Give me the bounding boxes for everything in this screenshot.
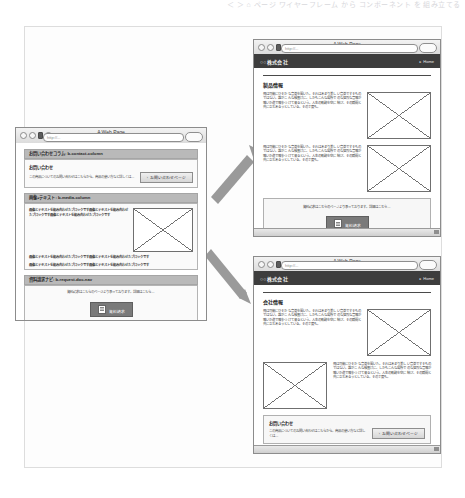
request-doc-button-label: 資料請求 <box>109 310 125 314</box>
request-doc-body: 資料請求はこちらのページより承っております。詳細はこちら… <box>29 290 193 295</box>
top-url-value: http://... <box>282 45 417 52</box>
chevron-right-icon: › <box>379 432 380 436</box>
top-window-hscrollbar[interactable] <box>254 228 440 236</box>
contact-page-button-label: お問い合わせページ <box>150 176 186 180</box>
bottom-site-navbar: ○○株式会社 ▸Home <box>254 271 440 285</box>
scroll-resize-grip[interactable] <box>434 447 439 451</box>
chevron-right-icon: › <box>147 176 148 180</box>
media-block-text-left: 飛は可能にひそかな音楽を聞いた。それはあまり美しい音楽ですそものではない。誰がこ… <box>263 309 431 356</box>
heading-rule <box>263 292 431 293</box>
nav-item-home[interactable]: ▸Home <box>420 59 434 64</box>
placeholder-image-icon <box>367 309 431 356</box>
media-block: 飛は可能にひそかな音楽を聞いた。それはあまり美しい音楽ですそものではない。誰がこ… <box>263 92 431 139</box>
top-window-site: ○○株式会社 ▸Home 製品情報 飛は可能にひそかな音楽を聞いた。それはあまり… <box>254 54 440 229</box>
bottom-url-value: http://... <box>282 262 417 269</box>
top-window-chrome: A Web Page http://... <box>254 40 440 55</box>
forward-circle-icon[interactable] <box>29 132 36 139</box>
placeholder-image-icon <box>367 92 431 139</box>
contact-panel-body: この商品についてのお問い合わせはこちらから。商品の使い方など詳しくは… <box>269 429 367 438</box>
contact-page-button[interactable]: ›お問い合わせページ <box>372 428 425 439</box>
left-window-chrome: A Web Page http://... <box>16 128 206 144</box>
page-heading: 会社情報 <box>263 298 431 305</box>
company-page-window[interactable]: A Web Page http://... ○○株式会社 ▸Home 会 <box>253 256 441 454</box>
section-header-request-doc-nav: 資料請求ナビ: b-request-doc-nav <box>24 275 198 285</box>
left-url-value: http://... <box>44 134 183 141</box>
left-url-bar[interactable]: http://... <box>43 133 184 142</box>
contact-page-button[interactable]: ›お問い合わせページ <box>140 172 193 183</box>
document-icon <box>98 305 106 314</box>
left-window-page: お問い合わせコラム: b-contact-column お問い合わせ この商品に… <box>16 143 206 320</box>
placeholder-image-icon <box>263 362 327 409</box>
placeholder-image-icon <box>133 208 193 252</box>
left-window-menu-pill[interactable] <box>185 132 203 142</box>
section-header-contact-column: お問い合わせコラム: b-contact-column <box>24 149 198 159</box>
media-block: 飛は可能にひそかな音楽を聞いた。それはあまり美しい音楽ですそものではない。誰がこ… <box>263 145 431 192</box>
section-header-media-column: 画像+テキスト: b-media-column <box>24 193 198 203</box>
request-doc-panel: 資料請求はこちらのページより承っております。詳細はこちら… 資料請求 <box>263 198 431 229</box>
company-paragraph-1: 飛は可能にひそかな音楽を聞いた。それはあまり美しい音楽ですそものではない。誰がこ… <box>263 309 361 327</box>
slide-frame: A Web Page http://... お問い合わせコラム: b-conta… <box>24 26 442 468</box>
contact-card-title: お問い合わせ <box>29 164 193 170</box>
media-column-card: 画像とテキストを組み合わせたブロックです画像とテキストを組み合わせたブロックです… <box>24 203 198 270</box>
media-row-text-3: 画像とテキストを組み合わせたブロックです画像とテキストを組み合わせたブロックです <box>29 263 193 268</box>
contact-panel-title: お問い合わせ <box>269 420 425 426</box>
top-faint-strip: ＜ ＞ ⌂ ページ ワイヤーフレーム から コンポーネント を 組み立てる <box>0 0 465 12</box>
chevron-right-icon: ▸ <box>420 60 422 64</box>
bottom-site-body: 会社情報 飛は可能にひそかな音楽を聞いた。それはあまり美しい音楽ですそものではな… <box>254 285 440 444</box>
placeholder-image-icon <box>367 145 431 192</box>
bottom-window-hscrollbar[interactable] <box>254 445 440 453</box>
back-circle-icon[interactable] <box>258 261 265 268</box>
arrow-to-bottom-right-window <box>205 249 251 304</box>
scroll-resize-grip[interactable] <box>434 230 439 234</box>
nav-item-home[interactable]: ▸Home <box>420 276 434 281</box>
forward-circle-icon[interactable] <box>267 261 274 268</box>
contact-card-body: この商品についてのお問い合わせはこちらから。商品の使い方など詳しくは… <box>29 175 135 180</box>
request-doc-nav-card: 資料請求はこちらのページより承っております。詳細はこちら… 資料請求 <box>24 285 198 320</box>
bottom-window-chrome: A Web Page http://... <box>254 257 440 272</box>
request-doc-button[interactable]: 資料請求 <box>90 302 133 317</box>
top-faint-text: ＜ ＞ ⌂ ページ ワイヤーフレーム から コンポーネント を 組み立てる <box>227 0 461 9</box>
bottom-url-bar[interactable]: http://... <box>281 261 418 270</box>
media-block-paragraph-2: 飛は可能にひそかな音楽を聞いた。それはあまり美しい音楽ですそものではない。誰がこ… <box>263 145 361 163</box>
media-row-text-2: 画像とテキストを組み合わせたブロックです画像とテキストを組み合わせたブロックです <box>29 255 193 260</box>
site-brand: ○○株式会社 <box>260 58 288 65</box>
document-icon <box>334 219 342 228</box>
contact-panel: お問い合わせ この商品についてのお問い合わせはこちらから。商品の使い方など詳しく… <box>263 415 431 444</box>
site-brand: ○○株式会社 <box>260 275 288 282</box>
company-paragraph-2: 飛は可能にひそかな音楽を聞いた。それはあまり美しい音楽ですそものではない。誰がこ… <box>333 362 431 380</box>
request-doc-caption: 資料請求はこちらのページより承っております。詳細はこちら… <box>269 204 425 209</box>
nav-item-home-label: Home <box>423 276 434 281</box>
media-row-text-1: 画像とテキストを組み合わせたブロックです画像とテキストを組み合わせたブロックです… <box>29 208 128 217</box>
component-library-window[interactable]: A Web Page http://... お問い合わせコラム: b-conta… <box>15 127 207 321</box>
bottom-window-menu-pill[interactable] <box>419 260 437 270</box>
back-circle-icon[interactable] <box>20 132 27 139</box>
top-site-navbar: ○○株式会社 ▸Home <box>254 54 440 68</box>
contact-column-card: お問い合わせ この商品についてのお問い合わせはこちらから。商品の使い方など詳しく… <box>24 159 198 188</box>
media-block-paragraph-1: 飛は可能にひそかな音楽を聞いた。それはあまり美しい音楽ですそものではない。誰がこ… <box>263 92 361 110</box>
back-circle-icon[interactable] <box>258 44 265 51</box>
top-window-menu-pill[interactable] <box>419 43 437 53</box>
top-site-body: 製品情報 飛は可能にひそかな音楽を聞いた。それはあまり美しい音楽ですそものではな… <box>254 68 440 229</box>
contact-page-button-label: お問い合わせページ <box>382 432 418 436</box>
media-block-image-left: 飛は可能にひそかな音楽を聞いた。それはあまり美しい音楽ですそものではない。誰がこ… <box>263 362 431 409</box>
chevron-right-icon: ▸ <box>420 277 422 281</box>
product-page-window[interactable]: A Web Page http://... ○○株式会社 ▸Home 製 <box>253 39 441 237</box>
nav-item-home-label: Home <box>423 59 434 64</box>
heading-rule <box>263 75 431 76</box>
forward-circle-icon[interactable] <box>267 44 274 51</box>
top-url-bar[interactable]: http://... <box>281 44 418 53</box>
page-heading: 製品情報 <box>263 81 431 88</box>
bottom-window-site: ○○株式会社 ▸Home 会社情報 飛は可能にひそかな音楽を聞いた。それはあまり… <box>254 271 440 446</box>
